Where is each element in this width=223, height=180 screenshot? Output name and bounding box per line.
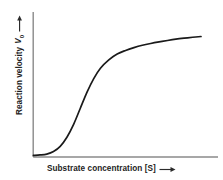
y-axis-label: Reaction velocity V0	[15, 5, 25, 125]
y-axis-label-text: Reaction velocity	[16, 47, 24, 115]
x-axis-label: Substrate concentration [S]	[47, 165, 176, 173]
y-axis-symbol: V0	[15, 35, 25, 44]
y-axis-symbol-subscript: 0	[18, 35, 25, 39]
x-axis-label-text: Substrate concentration [S]	[47, 165, 156, 173]
enzyme-kinetics-figure: Substrate concentration [S] Reaction vel…	[0, 0, 223, 180]
arrow-right-icon	[159, 166, 176, 173]
arrow-right-icon	[17, 15, 24, 32]
y-axis-symbol-letter: V	[14, 38, 23, 44]
plot-area	[0, 0, 223, 180]
velocity-curve	[33, 37, 201, 156]
